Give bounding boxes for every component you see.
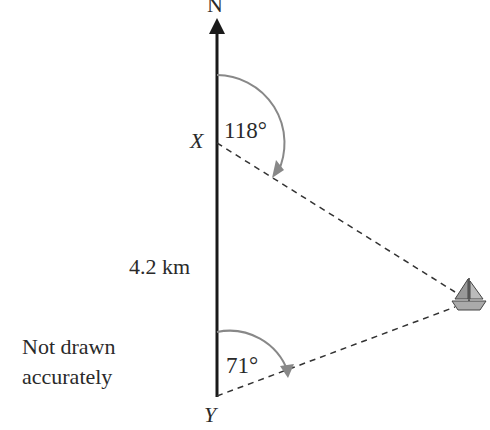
bearing-y-label: 71° xyxy=(226,353,258,379)
not-drawn-note-line1: Not drawn xyxy=(22,334,115,360)
sailboat-icon xyxy=(452,278,486,310)
north-arrow-icon xyxy=(209,18,225,34)
point-x-label: X xyxy=(190,128,203,154)
line-x-to-boat xyxy=(217,143,455,292)
not-drawn-note-line2: accurately xyxy=(22,364,112,390)
north-label: N xyxy=(207,0,223,18)
point-y-label: Y xyxy=(204,402,216,428)
bearing-diagram: N X Y 118° 71° 4.2 km Not drawn accurate… xyxy=(0,0,490,430)
line-y-to-boat xyxy=(217,307,455,396)
distance-label: 4.2 km xyxy=(129,254,190,280)
bearing-x-label: 118° xyxy=(224,118,267,144)
